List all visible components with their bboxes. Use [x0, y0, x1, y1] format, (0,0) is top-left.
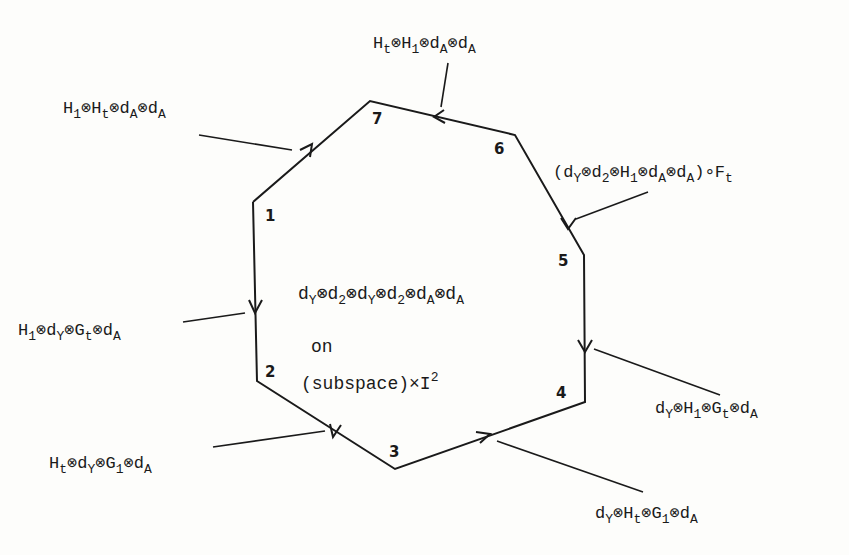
leader-e34 — [497, 441, 643, 492]
leader-e12 — [183, 313, 245, 322]
vertex-label-3: 3 — [389, 443, 399, 461]
edge-label-1-7: H1⊗Ht⊗dA⊗dA — [63, 100, 166, 121]
edge-label-1-2: H1⊗dY⊗Gt⊗dA — [18, 322, 121, 343]
vertex-label-5: 5 — [558, 252, 568, 270]
center-space-label: (subspace)×I2 — [301, 370, 438, 394]
leader-e65 — [576, 192, 648, 219]
leader-e67 — [441, 63, 448, 107]
vertex-label-1: 1 — [265, 207, 275, 225]
leader-e23 — [213, 431, 325, 447]
leader-e54 — [594, 349, 720, 395]
vertex-label-6: 6 — [494, 140, 504, 158]
edge-label-5-4: dY⊗H1⊗Gt⊗dA — [655, 400, 758, 421]
center-on-label: on — [311, 337, 333, 357]
center-expression: dY⊗d2⊗dY⊗d2⊗dA⊗dA — [298, 282, 464, 308]
vertex-label-2: 2 — [265, 363, 275, 381]
edge-label-3-4: dY⊗Ht⊗G1⊗dA — [595, 505, 698, 526]
leader-e17 — [199, 135, 292, 150]
edge-label-6-5: (dY⊗d2⊗H1⊗dA⊗dA)∘Ft — [553, 164, 733, 185]
vertex-label-4: 4 — [556, 384, 566, 402]
edge-label-3-2: Ht⊗dY⊗G1⊗dA — [49, 455, 152, 476]
edge-label-6-7: Ht⊗H1⊗dA⊗dA — [373, 35, 476, 56]
vertex-label-7: 7 — [372, 110, 382, 128]
